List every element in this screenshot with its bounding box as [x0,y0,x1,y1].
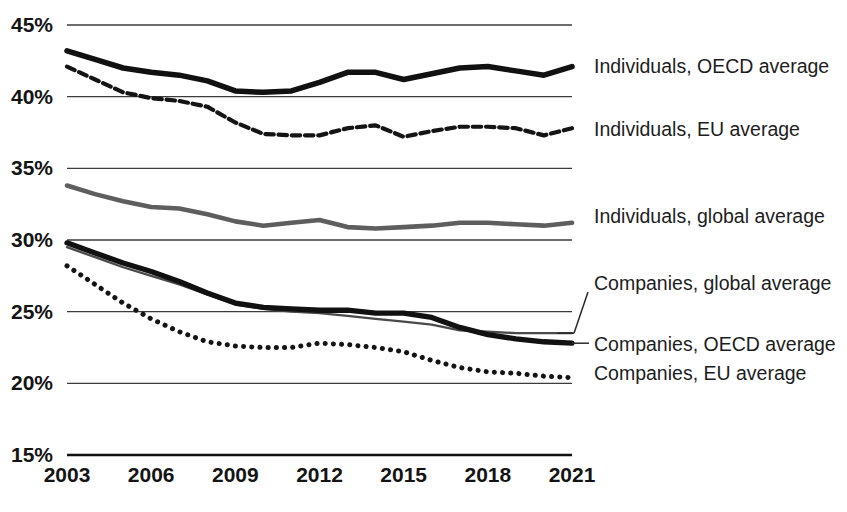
y-tick-label: 35% [11,156,53,179]
legend-label-companies-eu-average[interactable]: Companies, EU average [594,362,806,384]
x-tick-label: 2012 [296,463,343,486]
line-chart: 45%40%35%30%25%20%15% 200320062009201220… [0,0,847,512]
y-tick-label: 40% [11,85,53,108]
chart-canvas: 45%40%35%30%25%20%15% 200320062009201220… [0,0,847,512]
series-line-companies-oecd-average [67,243,572,343]
x-tick-label: 2006 [128,463,175,486]
series-lines [67,51,572,378]
x-tick-label: 2009 [212,463,259,486]
y-axis-tick-labels: 45%40%35%30%25%20%15% [11,13,53,466]
y-tick-label: 20% [11,371,53,394]
leader-line-companies-global-average [574,292,588,333]
series-line-companies-eu-average [67,266,572,378]
series-line-individuals-oecd-average [67,51,572,93]
y-tick-label: 30% [11,228,53,251]
legend-label-individuals-global-average[interactable]: Individuals, global average [594,205,825,227]
x-tick-label: 2003 [44,463,91,486]
series-line-individuals-global-average [67,186,572,229]
x-axis-tick-labels: 2003200620092012201520182021 [44,463,596,486]
x-tick-label: 2021 [549,463,596,486]
legend-label-companies-global-average[interactable]: Companies, global average [594,272,831,294]
x-tick-label: 2018 [464,463,511,486]
legend-leader-lines [557,292,589,343]
x-tick-label: 2015 [380,463,427,486]
y-tick-label: 25% [11,300,53,323]
y-tick-label: 45% [11,13,53,36]
series-line-companies-global-average [67,247,572,333]
gridlines [67,25,572,455]
legend-label-individuals-eu-average[interactable]: Individuals, EU average [594,118,800,140]
series-line-individuals-eu-average [67,67,572,137]
legend-label-individuals-oecd-average[interactable]: Individuals, OECD average [594,55,829,77]
legend-label-companies-oecd-average[interactable]: Companies, OECD average [594,333,836,355]
legend-labels: Individuals, OECD averageIndividuals, EU… [594,55,836,384]
